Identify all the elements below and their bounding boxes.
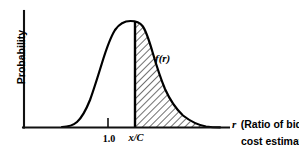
y-axis-title: Probability [15, 30, 27, 84]
x-axis-symbol: r [232, 118, 236, 130]
figure-container: Probability 1.0 x/C f(r) r (Ratio of bid… [0, 0, 299, 149]
x-axis-description-line-1: (Ratio of bid to [241, 118, 299, 130]
density-curve-label: f(r) [155, 52, 170, 64]
x-axis-description-line-2: cost estimate) [241, 135, 299, 147]
x-tick-label-unity: 1.0 [103, 133, 116, 144]
x-tick-label-threshold: x/C [128, 132, 143, 143]
